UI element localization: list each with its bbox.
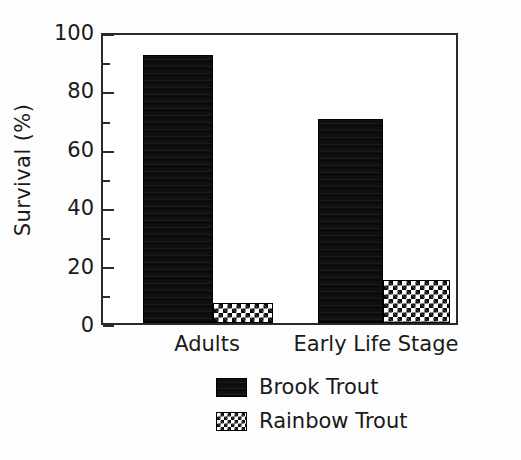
y-tick-label-20: 20 [42, 257, 94, 278]
y-tick-50 [103, 180, 110, 182]
y-tick-label-0: 0 [42, 315, 94, 336]
bar-early-life-stage-rainbow-trout [383, 280, 450, 323]
y-tick-label-80: 80 [42, 81, 94, 102]
y-tick-20 [103, 267, 114, 269]
bar-adults-brook-trout [143, 55, 213, 323]
legend-item-brook-trout: Brook Trout [0, 370, 521, 404]
plot-area [101, 33, 458, 325]
legend-swatch-rainbow-trout-icon [216, 412, 247, 431]
y-tick-label-100: 100 [42, 23, 94, 44]
bar-early-life-stage-brook-trout [318, 119, 383, 323]
y-tick-70 [103, 122, 110, 124]
x-category-label-adults: Adults [142, 332, 272, 356]
y-tick-90 [103, 63, 110, 65]
legend-label-rainbow-trout: Rainbow Trout [259, 410, 407, 432]
x-category-label-early-life-stage: Early Life Stage [281, 332, 471, 356]
y-tick-0 [103, 325, 114, 327]
y-tick-label-40: 40 [42, 198, 94, 219]
y-tick-label-60: 60 [42, 140, 94, 161]
y-tick-10 [103, 296, 110, 298]
y-tick-60 [103, 151, 114, 153]
bar-chart-figure: Survival (%) 100 80 60 40 20 0 Adults Ea… [0, 0, 521, 460]
chart-legend: Brook Trout Rainbow Trout [0, 370, 521, 438]
legend-item-rainbow-trout: Rainbow Trout [0, 404, 521, 438]
y-tick-100 [103, 34, 114, 36]
legend-swatch-brook-trout-icon [216, 378, 247, 397]
bar-adults-rainbow-trout [213, 303, 273, 323]
y-tick-40 [103, 209, 114, 211]
y-tick-80 [103, 92, 114, 94]
y-axis-title: Survival (%) [11, 104, 35, 236]
legend-label-brook-trout: Brook Trout [259, 376, 378, 398]
y-tick-30 [103, 238, 110, 240]
